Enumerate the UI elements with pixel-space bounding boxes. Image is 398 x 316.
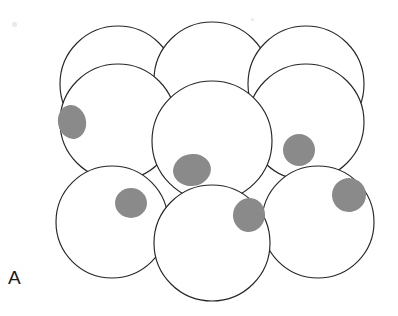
figure-panel: A bbox=[0, 0, 398, 316]
scan-speck-top-right bbox=[251, 18, 254, 21]
cell-packing-diagram bbox=[0, 0, 398, 316]
panel-label: A bbox=[8, 268, 21, 287]
nucleus-bottom-left bbox=[115, 188, 147, 218]
cell-bottom-left bbox=[56, 166, 168, 278]
nucleus-mid-right bbox=[283, 134, 315, 166]
cell-center bbox=[152, 81, 272, 201]
scan-speck-top-left bbox=[12, 22, 17, 27]
